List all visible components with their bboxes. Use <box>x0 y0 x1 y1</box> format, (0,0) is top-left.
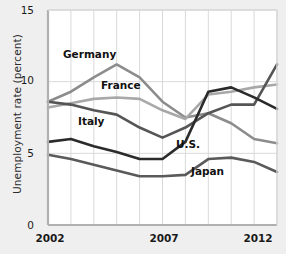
unemployment-rate-chart: Unemployment rate (percent) 15 10 5 0 20… <box>0 0 286 254</box>
series-label-france: France <box>101 79 141 91</box>
series-label-italy: Italy <box>78 115 104 127</box>
series-label-germany: Germany <box>63 48 116 60</box>
series-label-japan: Japan <box>191 165 224 177</box>
series-label-us: U.S. <box>176 138 200 150</box>
plot-area <box>0 0 286 254</box>
